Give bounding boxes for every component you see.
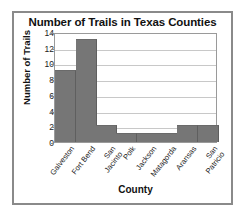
x-axis-label: County [54,184,217,195]
y-axis-ticks: 02468101214 [27,33,54,143]
bar [177,125,198,142]
bar [96,125,117,142]
plot-area [54,33,217,143]
bar [198,125,219,142]
x-axis-tick-labels: GalvestonFort BendSan JacintoPolkJackson… [54,143,217,185]
bar-series [55,34,216,142]
bar [76,39,97,142]
bar [116,133,137,142]
bar [157,133,178,142]
bar [137,133,158,142]
chart-figure: Number of Trails in Texas Counties Numbe… [0,0,245,217]
chart-title: Number of Trails in Texas Counties [12,16,233,28]
bar [55,70,76,142]
